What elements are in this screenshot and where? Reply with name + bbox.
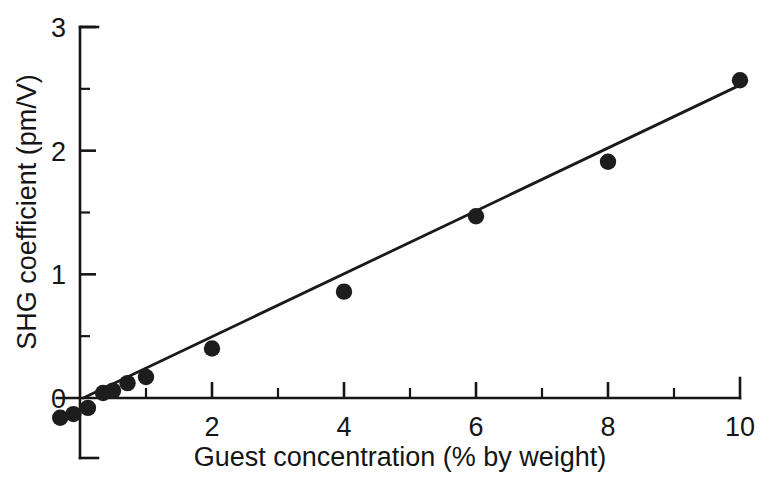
x-tick-label: 8 [600,412,615,442]
x-axis-title: Guest concentration (% by weight) [194,442,607,472]
y-axis-title: SHG coefficient (pm/V) [12,74,42,350]
tick-marks [80,27,674,398]
data-point [119,375,135,391]
x-tick-label: 6 [468,412,483,442]
y-tick-label: 2 [51,137,66,167]
y-tick-label: 1 [51,260,66,290]
data-points [52,72,748,426]
data-point [138,369,154,385]
chart-figure: 0123246810 Guest concentration (% by wei… [0,0,770,487]
data-point [204,340,220,356]
data-point [732,72,748,88]
tick-labels: 0123246810 [51,13,755,442]
y-tick-label: 3 [51,13,66,43]
data-point [468,208,484,224]
x-tick-label: 4 [336,412,351,442]
data-point [600,154,616,170]
x-tick-label: 2 [204,412,219,442]
x-tick-label: 10 [725,412,755,442]
axes [57,27,740,458]
data-point [80,400,96,416]
y-tick-label: 0 [51,384,66,414]
regression-line [83,85,740,398]
fit-line [83,85,740,398]
scatter-plot: 0123246810 Guest concentration (% by wei… [0,0,770,487]
data-point [105,382,121,398]
data-point [336,283,352,299]
data-point [65,406,81,422]
